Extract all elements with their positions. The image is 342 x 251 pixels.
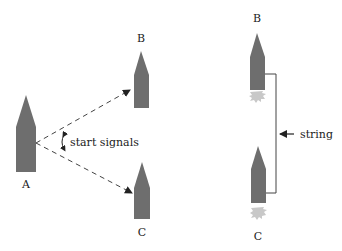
- flame-c-icon: [250, 207, 267, 220]
- label-b-left: B: [137, 32, 145, 45]
- label-b-right: B: [253, 12, 261, 25]
- rocket-b-left: [134, 51, 149, 108]
- start-signals-label: start signals: [70, 136, 139, 149]
- diagram-canvas: A B C start signals B C: [0, 0, 342, 251]
- signal-arrow-to-c: [36, 143, 132, 193]
- left-panel: A B C start signals: [16, 32, 150, 239]
- label-c-left: C: [138, 226, 146, 239]
- label-c-right: C: [254, 230, 262, 243]
- label-a: A: [21, 178, 31, 191]
- rocket-a: [16, 95, 36, 172]
- flame-b-icon: [249, 91, 266, 103]
- string-label: string: [300, 128, 333, 141]
- double-arrow-icon: [62, 135, 64, 149]
- rocket-c-left: [134, 162, 150, 219]
- rocket-c-right: [251, 146, 266, 203]
- string-connector: [265, 74, 276, 193]
- rocket-b-right: [250, 33, 265, 90]
- right-panel: B C string: [249, 12, 333, 243]
